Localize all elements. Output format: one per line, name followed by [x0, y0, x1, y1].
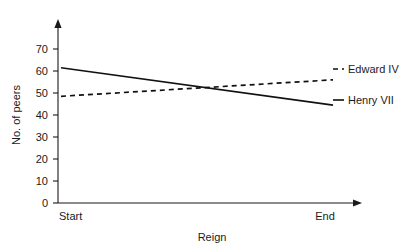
- y-tick-label-60: 60: [36, 65, 48, 77]
- legend-entry-edward-iv: Edward IV: [333, 63, 399, 75]
- legend-entry-henry-vii: Henry VII: [333, 94, 394, 106]
- y-tick-label-30: 30: [36, 131, 48, 143]
- x-tick-label-end: End: [315, 210, 335, 222]
- y-tick-label-50: 50: [36, 87, 48, 99]
- y-axis-tick-labels: 0 10 20 30 40 50 60 70: [36, 43, 48, 209]
- x-tick-label-start: Start: [59, 210, 82, 222]
- x-axis-title: Reign: [198, 231, 227, 243]
- x-axis: [58, 199, 362, 206]
- y-tick-label-40: 40: [36, 109, 48, 121]
- y-axis: [54, 19, 61, 203]
- y-axis-title: No. of peers: [10, 85, 22, 145]
- y-tick-label-20: 20: [36, 153, 48, 165]
- y-tick-label-0: 0: [42, 197, 48, 209]
- series-line-edward-iv: [61, 80, 333, 97]
- legend-label-edward-iv: Edward IV: [348, 63, 399, 75]
- series-line-henry-vii: [61, 68, 333, 105]
- y-axis-arrowhead: [54, 19, 61, 28]
- y-tick-label-10: 10: [36, 175, 48, 187]
- chart-container: 0 10 20 30 40 50 60 70 No. of peers Star…: [0, 0, 406, 251]
- y-tick-label-70: 70: [36, 43, 48, 55]
- legend-label-henry-vii: Henry VII: [348, 94, 394, 106]
- line-chart: 0 10 20 30 40 50 60 70 No. of peers Star…: [0, 0, 406, 251]
- x-axis-arrowhead: [353, 199, 362, 206]
- y-axis-ticks: [53, 49, 58, 203]
